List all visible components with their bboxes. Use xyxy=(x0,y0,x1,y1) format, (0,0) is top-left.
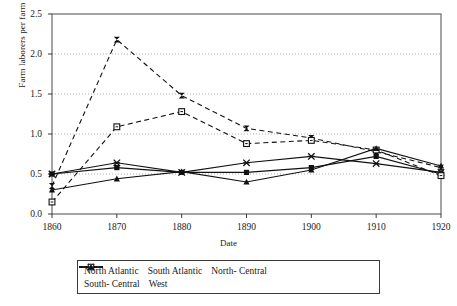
legend-row-1: North AtlanticSouth AtlanticNorth- Centr… xyxy=(82,264,375,277)
data-point-marker xyxy=(114,37,120,43)
legend-item: South Atlantic xyxy=(146,266,203,276)
legend-marker xyxy=(78,261,104,273)
data-point-marker xyxy=(49,199,55,205)
data-point-marker xyxy=(244,170,249,175)
legend-row-2: South- CentralWest xyxy=(82,277,375,290)
data-point-marker xyxy=(308,153,314,159)
data-point-marker xyxy=(373,160,379,166)
legend-label: North- Central xyxy=(211,266,267,276)
legend-item: North- Central xyxy=(209,266,267,276)
data-point-marker xyxy=(243,126,249,132)
data-point-marker xyxy=(374,154,379,159)
legend-item: South- Central xyxy=(82,279,140,289)
data-point-marker xyxy=(244,141,250,147)
data-point-marker xyxy=(308,138,314,144)
legend-label: South- Central xyxy=(84,279,140,289)
data-point-marker xyxy=(179,109,185,115)
data-point-marker xyxy=(114,124,120,130)
data-point-marker xyxy=(114,165,119,170)
chart-container: Farm laborers per farm Date 0.00.51.01.5… xyxy=(0,0,457,306)
data-point-marker xyxy=(243,160,249,166)
legend-label: South Atlantic xyxy=(148,266,203,276)
legend-item: West xyxy=(147,279,168,289)
series-line-3 xyxy=(52,112,441,202)
chart-legend: North AtlanticSouth AtlanticNorth- Centr… xyxy=(77,260,380,294)
data-point-marker xyxy=(438,173,444,179)
legend-label: West xyxy=(149,279,168,289)
